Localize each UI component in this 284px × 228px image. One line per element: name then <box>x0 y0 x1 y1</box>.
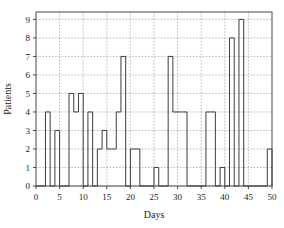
chart-figure: 05101520253035404550 0123456789 Days Pat… <box>0 0 284 228</box>
y-tick-label: 9 <box>26 15 31 25</box>
x-tick-label: 15 <box>102 192 112 202</box>
x-tick-label: 20 <box>126 192 136 202</box>
y-tick-label: 3 <box>26 126 31 136</box>
x-axis-title: Days <box>144 209 165 220</box>
y-tick-label: 8 <box>26 33 31 43</box>
y-tick-label: 2 <box>26 144 31 154</box>
x-tick-label: 10 <box>79 192 89 202</box>
x-tick-label: 0 <box>34 192 39 202</box>
x-tick-label: 35 <box>197 192 207 202</box>
y-tick-label: 0 <box>26 181 31 191</box>
y-tick-label: 7 <box>26 52 31 62</box>
chart-background <box>0 0 284 228</box>
patients-step-chart: 05101520253035404550 0123456789 Days Pat… <box>0 0 284 228</box>
x-tick-label: 5 <box>57 192 62 202</box>
y-tick-label: 5 <box>26 89 31 99</box>
y-tick-label: 1 <box>26 163 31 173</box>
x-tick-label: 40 <box>220 192 230 202</box>
x-tick-label: 30 <box>173 192 183 202</box>
x-tick-label: 50 <box>268 192 278 202</box>
y-tick-label: 6 <box>26 70 31 80</box>
x-tick-label: 25 <box>150 192 160 202</box>
y-tick-label: 4 <box>26 107 31 117</box>
y-axis-title: Patients <box>2 83 13 115</box>
x-tick-label: 45 <box>244 192 254 202</box>
